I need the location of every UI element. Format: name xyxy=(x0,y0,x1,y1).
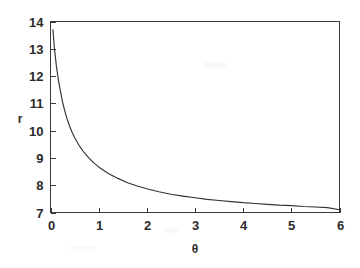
line-chart: 0123456 7891011121314 θ r xyxy=(0,0,360,268)
plot-frame xyxy=(51,22,340,213)
data-curve-r-theta xyxy=(53,30,340,210)
y-tick-label: 9 xyxy=(36,151,43,166)
y-tick-label: 8 xyxy=(36,178,43,193)
y-tick-label: 14 xyxy=(29,15,44,30)
y-tick-label: 12 xyxy=(29,69,43,84)
x-tick-label: 4 xyxy=(240,218,248,233)
x-tick-label: 5 xyxy=(288,218,295,233)
y-tick-label: 7 xyxy=(36,206,43,221)
y-tick-label: 10 xyxy=(29,124,43,139)
figure-container: 0123456 7891011121314 θ r xyxy=(0,0,360,268)
x-tick-label: 6 xyxy=(337,218,344,233)
x-tick-label: 1 xyxy=(96,218,103,233)
x-axis-ticks xyxy=(52,208,341,213)
x-tick-label: 3 xyxy=(192,218,199,233)
x-axis-title: θ xyxy=(192,242,199,256)
x-tick-label: 2 xyxy=(144,218,151,233)
y-axis-title: r xyxy=(18,112,23,126)
y-axis-tick-labels: 7891011121314 xyxy=(29,15,44,221)
y-tick-label: 11 xyxy=(30,96,44,111)
x-axis-tick-labels: 0123456 xyxy=(48,218,344,233)
y-tick-label: 13 xyxy=(29,42,43,57)
x-tick-label: 0 xyxy=(48,218,55,233)
